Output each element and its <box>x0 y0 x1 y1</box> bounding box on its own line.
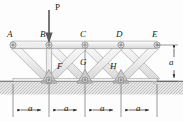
dim-label-span-1: a <box>28 104 33 113</box>
dim-label-span-3: a <box>100 104 105 113</box>
truss-diagram: P A B C D E F G H a a a a a <box>0 0 183 121</box>
load-label-P: P <box>55 3 60 12</box>
joint-label-E: E <box>152 30 158 39</box>
pin-F <box>46 77 52 83</box>
joint-label-C: C <box>80 30 86 39</box>
joint-label-D: D <box>116 30 123 39</box>
pin-C <box>82 42 88 48</box>
ground-hatching <box>0 82 183 95</box>
joint-label-A: A <box>7 30 13 39</box>
dim-label-span-4: a <box>136 104 141 113</box>
pin-H <box>118 77 124 83</box>
dimension-vertical <box>157 45 178 81</box>
joint-label-F: F <box>57 62 63 71</box>
pin-D <box>118 42 124 48</box>
pin-A <box>10 42 16 48</box>
joint-label-B: B <box>40 30 46 39</box>
dim-label-vertical: a <box>169 58 174 67</box>
load-arrow-P <box>45 10 52 44</box>
dim-label-span-2: a <box>64 104 69 113</box>
pin-G <box>82 77 88 83</box>
joint-label-H: H <box>110 62 117 71</box>
joint-label-G: G <box>80 58 87 67</box>
top-chord-panel-A-B <box>13 42 48 47</box>
